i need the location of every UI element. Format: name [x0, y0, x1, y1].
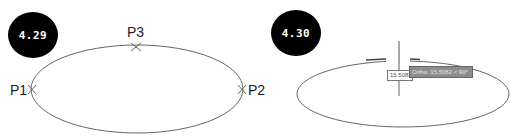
point-label-p1: P1 — [10, 82, 27, 98]
ellipse-429 — [31, 45, 243, 133]
point-label-p3: P3 — [127, 24, 144, 40]
point-label-p2: P2 — [248, 82, 265, 98]
ortho-tooltip: Ortho: 15.5082 < 90° — [409, 66, 473, 78]
p3-marker-icon — [131, 43, 141, 51]
figure-badge-430: 4.30 — [271, 10, 321, 56]
p1-marker-icon — [28, 85, 36, 94]
figure-badge-429: 4.29 — [8, 12, 58, 58]
p2-marker-icon — [238, 85, 246, 94]
